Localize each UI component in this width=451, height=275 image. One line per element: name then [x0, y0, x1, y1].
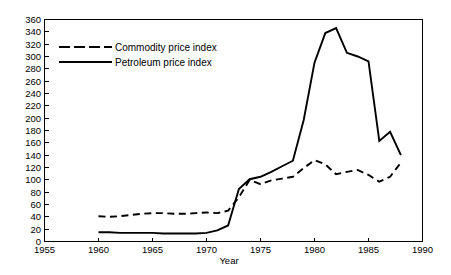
x-tick-group: 19551960196519701975198019851990	[34, 238, 433, 255]
x-axis-title: Year	[219, 255, 238, 266]
y-tick-label: 60	[30, 199, 41, 210]
y-tick-label: 240	[25, 88, 41, 99]
chart-figure: 0204060801001201401601802002202402602803…	[0, 0, 451, 275]
y-tick-label: 180	[25, 125, 41, 136]
price-index-line-chart: 0204060801001201401601802002202402602803…	[0, 0, 451, 275]
chart-legend: Commodity price indexPetroleum price ind…	[59, 42, 217, 68]
x-tick-label: 1965	[142, 244, 163, 255]
y-tick-label: 20	[30, 224, 41, 235]
x-tick-label: 1960	[88, 244, 109, 255]
y-tick-label: 160	[25, 137, 41, 148]
legend-label-1: Commodity price index	[115, 42, 217, 53]
y-tick-label: 200	[25, 113, 41, 124]
x-tick-label: 1990	[412, 244, 433, 255]
x-tick-label: 1980	[304, 244, 325, 255]
y-tick-label: 320	[25, 39, 41, 50]
y-tick-label: 260	[25, 76, 41, 87]
x-tick-label: 1955	[34, 244, 55, 255]
y-tick-label: 40	[30, 211, 41, 222]
y-tick-label: 140	[25, 150, 41, 161]
y-tick-label: 120	[25, 162, 41, 173]
y-tick-label: 340	[25, 26, 41, 37]
y-tick-label: 280	[25, 63, 41, 74]
x-tick-label: 1970	[196, 244, 217, 255]
y-tick-label: 80	[30, 187, 41, 198]
y-tick-label: 100	[25, 174, 41, 185]
x-tick-label: 1985	[358, 244, 379, 255]
legend-label-2: Petroleum price index	[115, 57, 212, 68]
y-tick-label: 220	[25, 100, 41, 111]
y-tick-label: 300	[25, 51, 41, 62]
series-1-line	[99, 160, 401, 217]
y-tick-label: 360	[25, 14, 41, 25]
x-tick-label: 1975	[250, 244, 271, 255]
